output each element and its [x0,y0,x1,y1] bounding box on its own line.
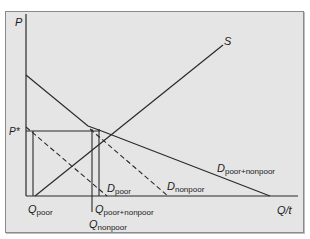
d-total-label: Dpoor+nonpoor [217,162,275,176]
supply-label: S [224,35,232,47]
supply-demand-diagram: P Q/t P* S Dpoor Dnonpoor Dpoor+nonpoor … [0,0,310,239]
supply-curve [35,45,223,196]
d-poor-curve [26,127,107,196]
q-poor-label: Qpoor [28,203,53,217]
y-axis-label: P [15,16,23,28]
d-nonpoor-curve [90,129,168,196]
x-axis-label: Q/t [277,204,293,216]
q-total-label: Qpoor+nonpoor [95,203,154,217]
q-nonpoor-label: Qnonpoor [89,218,127,232]
d-poor-label: Dpoor [107,182,131,196]
d-nonpoor-label: Dnonpoor [167,180,205,194]
d-total-curve [26,75,270,196]
price-label: P* [9,126,21,137]
